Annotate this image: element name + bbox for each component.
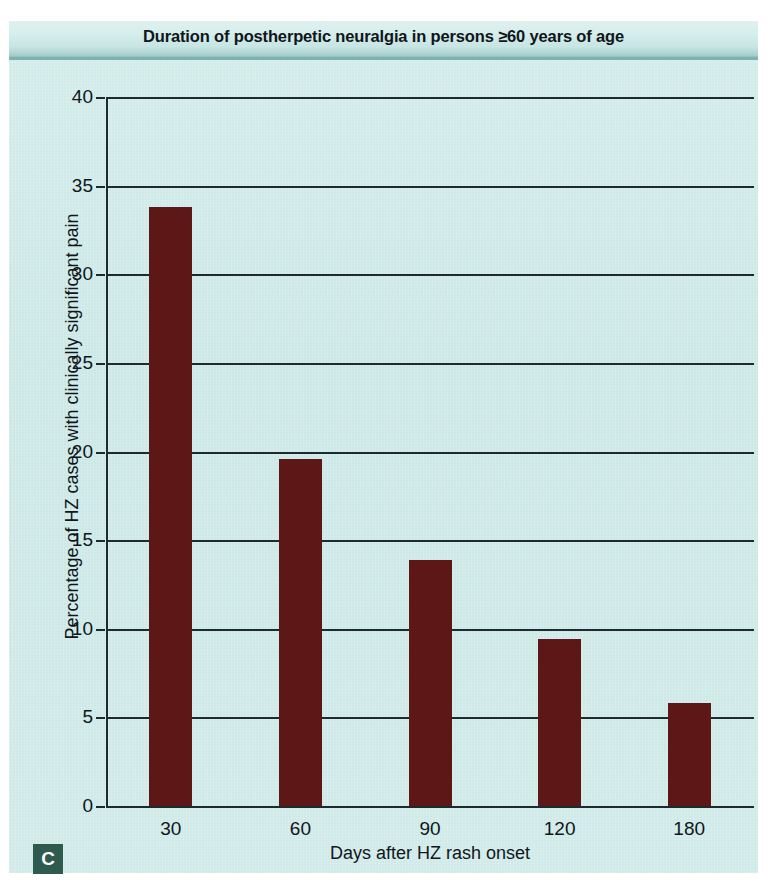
x-axis-baseline <box>106 806 754 808</box>
y-tick-label: 0 <box>82 795 93 817</box>
y-tick-label: 5 <box>82 706 93 728</box>
gridline <box>106 452 754 454</box>
gridline <box>106 540 754 542</box>
figure-title: Duration of postherpetic neuralgia in pe… <box>9 27 758 46</box>
y-tick-mark <box>96 806 105 808</box>
x-tick-label: 120 <box>544 818 576 840</box>
bar <box>668 703 711 806</box>
x-tick-label: 90 <box>419 818 440 840</box>
bar <box>538 639 581 806</box>
y-tick-mark <box>96 186 105 188</box>
x-axis-title: Days after HZ rash onset <box>106 843 754 864</box>
bar <box>279 459 322 806</box>
gridline <box>106 97 754 99</box>
plot-area: 0510152025303540 306090120180 <box>106 97 754 806</box>
gridline <box>106 186 754 188</box>
figure-title-band: Duration of postherpetic neuralgia in pe… <box>9 21 758 60</box>
bar <box>409 560 452 806</box>
y-tick-mark <box>96 540 105 542</box>
x-tick-label: 60 <box>290 818 311 840</box>
y-tick-mark <box>96 452 105 454</box>
panel-letter-badge: C <box>33 844 63 874</box>
y-tick-label: 40 <box>72 86 93 108</box>
x-tick-label: 180 <box>673 818 705 840</box>
bar <box>149 207 192 806</box>
gridline <box>106 363 754 365</box>
figure-panel: Duration of postherpetic neuralgia in pe… <box>9 21 758 873</box>
y-tick-mark <box>96 97 105 99</box>
y-tick-mark <box>96 717 105 719</box>
x-tick-label: 30 <box>160 818 181 840</box>
y-tick-mark <box>96 363 105 365</box>
y-tick-mark <box>96 629 105 631</box>
y-tick-mark <box>96 274 105 276</box>
y-axis-title: Percentage of HZ cases with clinically s… <box>62 107 83 747</box>
gridline <box>106 274 754 276</box>
